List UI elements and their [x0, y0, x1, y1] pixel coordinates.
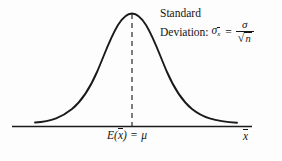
radical-sign: √	[238, 32, 245, 44]
sigma-over-sqrt-n-fraction: σ √n	[236, 19, 254, 44]
mean-axis-label: E(x)=μ	[107, 128, 147, 141]
sigma-xbar-symbol: σx	[212, 24, 221, 41]
paren-close: )	[123, 129, 127, 141]
annotation-deviation-label: Deviation:	[160, 26, 209, 39]
fraction-numerator-sigma: σ	[240, 19, 249, 30]
center-equals-sign: =	[131, 129, 138, 141]
mu-symbol: μ	[141, 129, 147, 141]
xbar-symbol-axis: x	[243, 129, 248, 142]
xbar-symbol-center: x	[118, 128, 123, 141]
normal-distribution-figure: Standard Deviation: σx = σ √n E(x)=μ x	[0, 0, 282, 161]
sigma-subscript-xbar: x	[217, 27, 220, 41]
fraction-denominator-sqrt-n: √n	[236, 32, 254, 44]
standard-deviation-annotation: Standard Deviation: σx = σ √n	[160, 7, 254, 45]
expectation-function-symbol: E	[107, 129, 114, 141]
x-axis-label: x	[243, 129, 248, 142]
equals-sign: =	[225, 26, 232, 39]
annotation-line-2: Deviation: σx = σ √n	[160, 20, 254, 45]
radicand-n: n	[244, 32, 251, 44]
